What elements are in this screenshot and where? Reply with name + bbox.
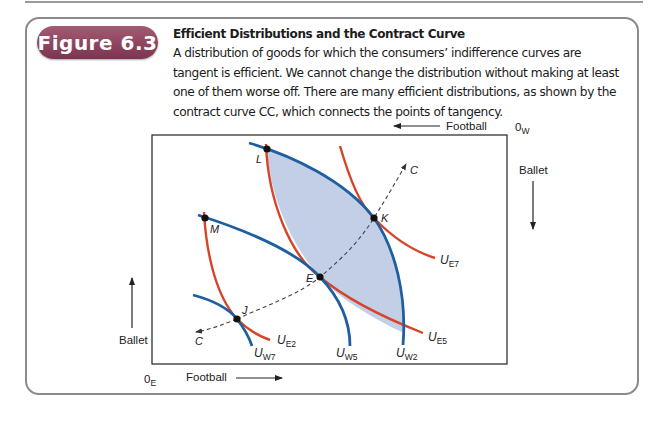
label-c-lower: C [195, 335, 203, 347]
label-l: L [256, 153, 262, 165]
label-u-e5: UE5 [428, 330, 447, 346]
shaded-efficiency-region [267, 149, 404, 333]
label-j: J [241, 304, 248, 316]
label-u-e7: UE7 [440, 253, 459, 269]
contract-curve-lower-end [196, 319, 237, 332]
origin-w-label: 0W [515, 121, 529, 136]
edgeworth-box-chart: L K M E J C C UE7 UE5 UE2 UW7 UW5 UW2 Fo… [0, 0, 663, 424]
right-ballet-label: Ballet [519, 164, 549, 176]
left-ballet-label: Ballet [119, 334, 149, 346]
point-j [233, 315, 240, 322]
point-e [316, 273, 323, 280]
label-u-w2: UW2 [396, 346, 418, 362]
origin-e-label: 0E [144, 373, 156, 388]
point-k [370, 214, 377, 221]
top-football-label: Football [446, 120, 487, 132]
label-u-w5: UW5 [336, 346, 358, 362]
label-u-e2: UE2 [277, 333, 296, 349]
label-c-upper: C [410, 164, 418, 176]
bottom-football-label: Football [186, 371, 227, 383]
label-k: K [381, 212, 389, 224]
label-e: E [306, 272, 314, 284]
point-m [201, 214, 208, 221]
point-l [263, 145, 270, 152]
label-u-w7: UW7 [254, 346, 276, 362]
label-m: M [210, 223, 220, 235]
